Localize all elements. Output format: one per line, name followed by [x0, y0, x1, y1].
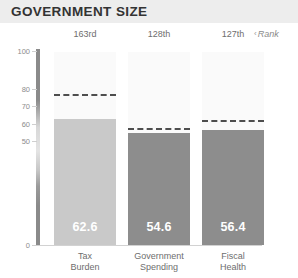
- reference-line: [202, 120, 264, 122]
- category-label-line: Spending: [118, 262, 200, 273]
- x-axis-category-label: GovernmentSpending: [118, 251, 200, 273]
- x-axis-category-label: FiscalHealth: [192, 251, 274, 273]
- category-label-line: Tax: [44, 251, 126, 262]
- bar-value-label: 62.6: [54, 220, 116, 234]
- x-axis-category-label: TaxBurden: [44, 251, 126, 273]
- bar-value-label: 54.6: [128, 220, 190, 234]
- y-axis-tick-mark: [32, 51, 37, 52]
- x-axis-baseline: [36, 245, 262, 246]
- category-label-line: Fiscal: [192, 251, 274, 262]
- bar-government-spending[interactable]: 54.6: [128, 133, 190, 245]
- bar-value-label: 56.4: [202, 220, 264, 234]
- y-axis-strip: [36, 49, 40, 245]
- bar-tax-burden[interactable]: 62.6: [54, 119, 116, 245]
- y-axis-tick-mark: [32, 106, 37, 107]
- y-axis-tick-mark: [32, 124, 37, 125]
- category-label-line: Burden: [44, 262, 126, 273]
- y-axis-tick-label: 80: [8, 85, 30, 94]
- y-axis-tick-mark: [32, 89, 37, 90]
- bar-fiscal-health[interactable]: 56.4: [202, 130, 264, 245]
- y-axis-tick-mark: [32, 141, 37, 142]
- y-axis-tick-mark: [32, 245, 37, 246]
- y-axis-tick-label: 50: [8, 137, 30, 146]
- y-axis-tick-label: 100: [8, 47, 30, 56]
- category-label-line: Government: [118, 251, 200, 262]
- y-axis-tick-label: 70: [8, 102, 30, 111]
- bar-chart-plot: 10080706050062.6TaxBurden54.6GovernmentS…: [0, 0, 298, 278]
- reference-line: [128, 128, 190, 130]
- category-label-line: Health: [192, 262, 274, 273]
- y-axis-tick-label: 0: [8, 241, 30, 250]
- y-axis-tick-label: 60: [8, 120, 30, 129]
- reference-line: [54, 94, 116, 96]
